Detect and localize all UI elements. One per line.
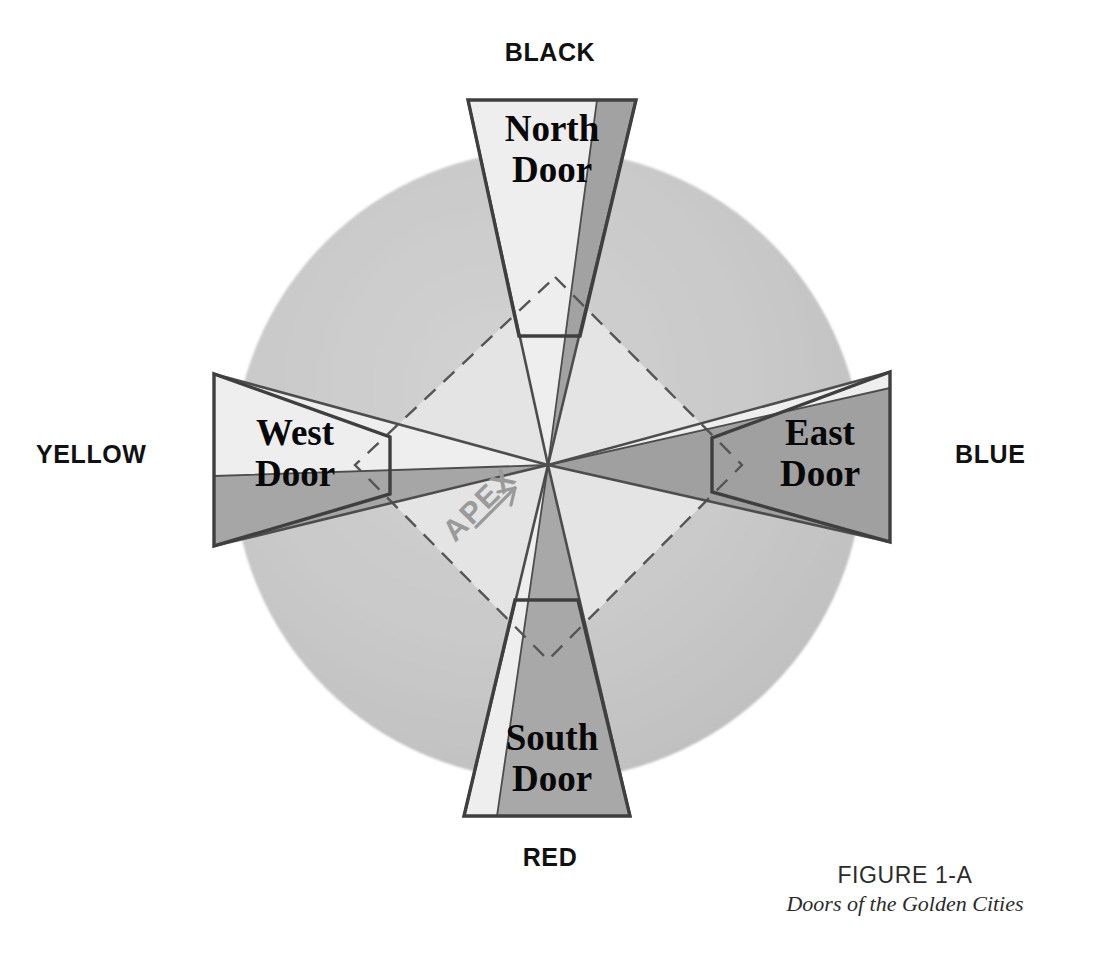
east-door-label-line2: Door: [740, 453, 900, 494]
figure-number: FIGURE 1-A: [720, 862, 1090, 889]
cardinal-label-east: BLUE: [955, 440, 1025, 469]
west-door-label-line2: Door: [215, 453, 375, 494]
west-door-label-line1: West: [215, 412, 375, 453]
figure-caption: FIGURE 1-A Doors of the Golden Cities: [720, 862, 1090, 917]
west-door-label: West Door: [215, 412, 375, 495]
south-door-label: South Door: [462, 717, 642, 800]
figure-container: APEX BLACK BLUE RED YELLOW North Door Ea…: [0, 0, 1100, 959]
north-door-label: North Door: [462, 108, 642, 191]
figure-title: Doors of the Golden Cities: [720, 891, 1090, 917]
north-door-label-line2: Door: [462, 149, 642, 190]
north-door-label-line1: North: [462, 108, 642, 149]
south-door-label-line1: South: [462, 717, 642, 758]
cardinal-label-west: YELLOW: [36, 440, 147, 469]
cardinal-label-north: BLACK: [0, 38, 1100, 67]
south-door-label-line2: Door: [462, 758, 642, 799]
east-door-label: East Door: [740, 412, 900, 495]
east-door-label-line1: East: [740, 412, 900, 453]
